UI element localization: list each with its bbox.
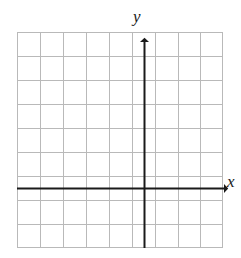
coordinate-grid-canvas bbox=[0, 0, 241, 258]
coordinate-plane-figure: y x bbox=[0, 0, 241, 258]
y-axis-label: y bbox=[133, 8, 141, 25]
x-axis-label: x bbox=[227, 173, 235, 190]
